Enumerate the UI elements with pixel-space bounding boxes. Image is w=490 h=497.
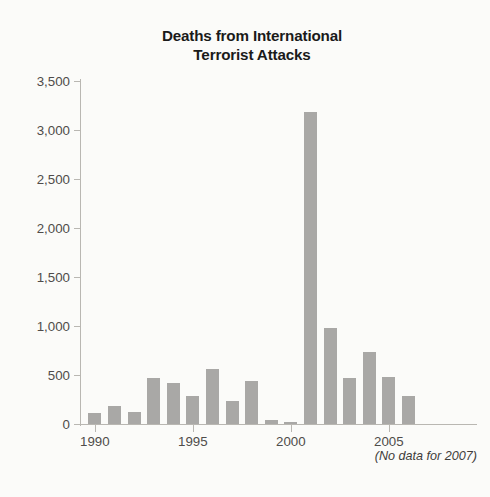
bar bbox=[245, 381, 258, 424]
bar bbox=[206, 369, 219, 424]
bar bbox=[324, 328, 337, 424]
y-axis-tick-label: 2,000 bbox=[6, 221, 70, 236]
y-axis-tick bbox=[74, 424, 81, 425]
x-axis-tick-label: 1995 bbox=[178, 434, 208, 449]
bar bbox=[108, 406, 121, 424]
y-axis-tick-label: 2,500 bbox=[6, 172, 70, 187]
bar bbox=[128, 412, 141, 424]
chart-title: Deaths from International Terrorist Atta… bbox=[0, 26, 490, 64]
y-axis-tick-label: 3,500 bbox=[6, 74, 70, 89]
bar bbox=[226, 401, 239, 424]
y-axis-tick-label: 0 bbox=[6, 417, 70, 432]
chart-title-line-2: Terrorist Attacks bbox=[14, 45, 490, 64]
bar bbox=[186, 396, 199, 424]
bar bbox=[147, 378, 160, 424]
y-axis-tick bbox=[74, 326, 81, 327]
y-axis-tick-label: 500 bbox=[6, 368, 70, 383]
bar bbox=[382, 377, 395, 424]
x-axis-tick-label: 2005 bbox=[374, 434, 404, 449]
bar-chart: Deaths from International Terrorist Atta… bbox=[0, 0, 490, 497]
plot-area bbox=[81, 81, 477, 424]
x-axis-labels: 1990199520002005 bbox=[81, 425, 477, 449]
x-axis-tick-label: 1990 bbox=[80, 434, 110, 449]
bar bbox=[363, 352, 376, 424]
y-axis-tick bbox=[74, 130, 81, 131]
no-data-annotation: (No data for 2007) bbox=[375, 449, 477, 463]
bar bbox=[265, 420, 278, 424]
bar bbox=[284, 422, 297, 424]
y-axis-tick bbox=[74, 228, 81, 229]
bar bbox=[402, 396, 415, 424]
y-axis-tick bbox=[74, 277, 81, 278]
y-axis-labels: 3,5003,0002,5002,0001,5001,0005000 bbox=[0, 81, 70, 424]
y-axis-tick-label: 1,000 bbox=[6, 319, 70, 334]
chart-title-line-1: Deaths from International bbox=[14, 26, 490, 45]
x-axis-tick-label: 2000 bbox=[276, 434, 306, 449]
bar bbox=[343, 378, 356, 424]
y-axis-tick-label: 1,500 bbox=[6, 270, 70, 285]
bar bbox=[167, 383, 180, 424]
y-axis-tick bbox=[74, 179, 81, 180]
y-axis-tick bbox=[74, 375, 81, 376]
bar bbox=[88, 413, 101, 424]
y-axis-tick bbox=[74, 81, 81, 82]
bar bbox=[304, 112, 317, 424]
y-axis-tick-label: 3,000 bbox=[6, 123, 70, 138]
